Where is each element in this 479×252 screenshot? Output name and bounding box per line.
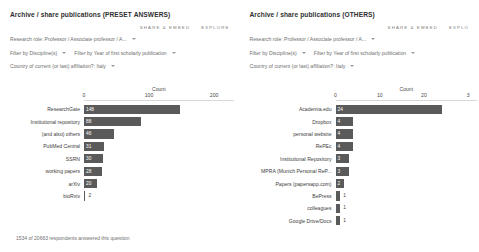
bar-chart-left: Count 0 100 200 ResearchGate 148 Insti <box>10 86 234 202</box>
filter-row-country-right: Country of current (or last) affiliation… <box>250 63 476 69</box>
panel-others: Archive / share publications (OTHERS) SH… <box>240 0 479 252</box>
bar-row: Google Drive/Docs 1 <box>244 215 478 227</box>
bar[interactable]: 3 <box>336 154 349 163</box>
filter-research-role-right[interactable]: Research role: Professor / Associate pro… <box>250 36 376 42</box>
chevron-down-icon <box>411 52 415 54</box>
filter-country-right[interactable]: Country of current (or last) affiliation… <box>250 63 355 69</box>
bar-track: 20 <box>84 177 234 189</box>
bar[interactable]: 31 <box>84 142 104 151</box>
bar-value-label: 20 <box>84 181 91 186</box>
filter-row-role-right: Research role: Professor / Associate pro… <box>250 36 476 42</box>
bar-value-label: 4 <box>336 119 341 124</box>
bar-value-label: 1 <box>343 193 346 198</box>
bar-row: (and also) others 46 <box>10 128 234 140</box>
bar-row: SSRN 30 <box>10 153 234 165</box>
filter-discipline-label-left: Filter by Discipline(s) <box>10 50 57 56</box>
bar[interactable]: 24 <box>336 105 442 114</box>
chevron-down-icon <box>371 38 375 40</box>
x-tick: 10 <box>377 92 383 98</box>
bar-value-label: 46 <box>84 131 91 136</box>
bar-rows-left: ResearchGate 148 Institutional repositor… <box>10 103 234 202</box>
bar-row: BePress 1 <box>244 190 478 202</box>
x-tick: 20 <box>421 92 427 98</box>
bar-track: 1 <box>336 190 478 202</box>
bar-row: RePEc 4 <box>244 140 478 152</box>
filter-year-left[interactable]: Filter by Year of first scholarly public… <box>74 50 175 56</box>
chevron-down-icon <box>350 65 354 67</box>
bar[interactable]: 2 <box>336 179 345 188</box>
bar[interactable] <box>336 204 340 213</box>
bar[interactable]: 46 <box>84 129 114 138</box>
filter-year-right[interactable]: Filter by Year of first scholarly public… <box>314 50 415 56</box>
bar-row: Institutional Repository 3 <box>244 153 478 165</box>
bar-track: 88 <box>84 115 234 127</box>
bar-value-label: 31 <box>84 144 91 149</box>
bar[interactable]: 148 <box>84 105 180 114</box>
bar-category-label: personal website <box>244 131 336 137</box>
x-tick: 0 <box>334 92 337 98</box>
bar-track: 30 <box>84 153 234 165</box>
bar[interactable]: 4 <box>336 117 354 126</box>
bar-category-label: working papers <box>10 168 84 174</box>
filter-country-left[interactable]: Country of current (or last) affiliation… <box>10 63 115 69</box>
bar-track: 3 <box>336 153 478 165</box>
filter-row-country-left: Country of current (or last) affiliation… <box>10 63 236 69</box>
filters-left: Research role: Professor / Associate pro… <box>10 36 236 69</box>
bar[interactable]: 4 <box>336 142 354 151</box>
bar-track: 28 <box>84 165 234 177</box>
toolbar-left: SHARE & EMBED EXPLORE <box>10 25 236 30</box>
bar-category-label: (and also) others <box>10 131 84 137</box>
bar-track: 1 <box>336 202 478 214</box>
bar-track: 4 <box>336 115 478 127</box>
chevron-down-icon <box>62 52 66 54</box>
bar-category-label: bioRxiv <box>10 193 84 199</box>
bar-row: ResearchGate 148 <box>10 103 234 115</box>
bar-category-label: PubMed Central <box>10 143 84 149</box>
bar[interactable]: 3 <box>336 167 349 176</box>
bar[interactable]: 20 <box>84 179 97 188</box>
panel-preset-answers: Archive / share publications (PRESET ANS… <box>0 0 240 252</box>
bar-value-label: 4 <box>336 144 341 149</box>
filter-country-label-left: Country of current (or last) affiliation… <box>10 63 106 69</box>
bar-value-label: 88 <box>84 119 91 124</box>
bar[interactable] <box>84 191 85 200</box>
filter-row-discipline-year-left: Filter by Discipline(s) Filter by Year o… <box>10 50 236 56</box>
bar[interactable] <box>336 216 340 225</box>
explore-link-left[interactable]: EXPLORE <box>201 25 229 30</box>
bar[interactable]: 88 <box>84 117 141 126</box>
bar[interactable] <box>336 191 340 200</box>
bar-track: 1 <box>336 215 478 227</box>
chevron-down-icon <box>172 52 176 54</box>
filter-year-label-right: Filter by Year of first scholarly public… <box>314 50 406 56</box>
bar[interactable]: 30 <box>84 154 103 163</box>
share-and-embed-link-right[interactable]: SHARE & EMBED <box>388 25 438 30</box>
x-tick: 200 <box>210 92 219 98</box>
filter-year-label-left: Filter by Year of first scholarly public… <box>74 50 166 56</box>
explore-link-right[interactable]: EXPLO <box>449 25 469 30</box>
bar-value-label: 1 <box>343 205 346 210</box>
filter-discipline-right[interactable]: Filter by Discipline(s) <box>250 50 306 56</box>
share-and-embed-link-left[interactable]: SHARE & EMBED <box>140 25 190 30</box>
bar-track: 24 <box>336 103 478 115</box>
x-axis-line-right <box>336 100 478 101</box>
bar-track: 4 <box>336 140 478 152</box>
bar-category-label: Academia.edu <box>244 106 336 112</box>
x-axis-line-left <box>84 100 234 101</box>
bar-value-label: 28 <box>84 169 91 174</box>
filter-discipline-left[interactable]: Filter by Discipline(s) <box>10 50 66 56</box>
filter-research-role-left[interactable]: Research role: Professor / Associate pro… <box>10 36 136 42</box>
bar[interactable]: 4 <box>336 129 354 138</box>
bar-track: 3 <box>336 165 478 177</box>
bar-value-label: 2 <box>336 181 341 186</box>
bar-track: 2 <box>336 177 478 189</box>
filters-right: Research role: Professor / Associate pro… <box>250 36 476 69</box>
bar-category-label: Google Drive/Docs <box>244 218 336 224</box>
bar[interactable]: 28 <box>84 167 102 176</box>
bar-category-label: RePEc <box>244 143 336 149</box>
bar-row: colleagues 1 <box>244 202 478 214</box>
respondents-footer: 1534 of 20663 respondents answered this … <box>16 235 129 241</box>
x-tick: 0 <box>83 92 86 98</box>
bar-row: arXiv 20 <box>10 177 234 189</box>
x-axis-ticks-right: 0 10 20 3 <box>336 92 478 100</box>
bar-category-label: SSRN <box>10 156 84 162</box>
